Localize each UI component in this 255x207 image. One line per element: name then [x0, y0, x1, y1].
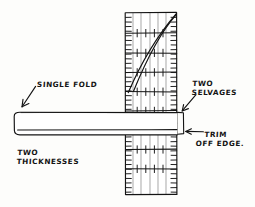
label-trim-off-edge-line2: OFF EDGE.	[195, 139, 244, 148]
diagram-canvas: SINGLE FOLD TWO THICKNESSES TWO SELVAGES…	[0, 0, 255, 207]
label-two-selvages: TWO SELVAGES	[191, 79, 237, 97]
fabric-outline	[14, 112, 177, 135]
trim-off-edge-arrow-icon	[186, 129, 204, 134]
diagram-illustration	[0, 0, 255, 207]
label-trim-off-edge-line1: TRIM	[204, 130, 227, 139]
label-two-selvages-line2: SELVAGES	[191, 88, 237, 97]
label-two-thicknesses: TWO THICKNESSES	[16, 148, 80, 166]
label-single-fold: SINGLE FOLD	[37, 80, 98, 89]
quilting-ruler	[125, 12, 177, 194]
single-fold-arrow-icon	[22, 86, 36, 106]
label-two-selvages-line1: TWO	[192, 79, 213, 88]
label-two-thicknesses-line2: THICKNESSES	[16, 157, 79, 166]
trim-bracket	[177, 112, 183, 134]
label-trim-off-edge: TRIMOFF EDGE.	[203, 130, 245, 148]
folded-fabric	[14, 112, 177, 135]
label-two-thicknesses-line1: TWO	[17, 148, 38, 157]
